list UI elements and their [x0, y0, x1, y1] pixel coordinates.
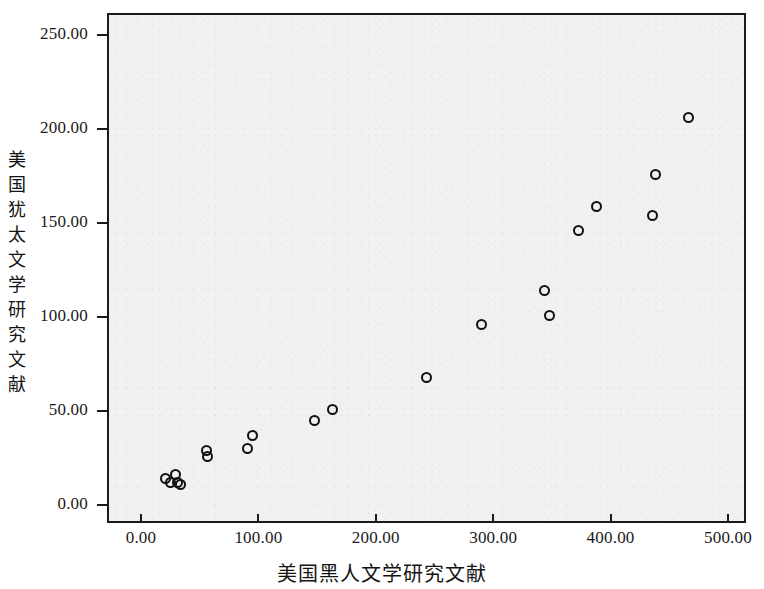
x-axis-tick-label: 400.00: [566, 528, 656, 548]
data-point: [650, 169, 661, 180]
x-axis-tick-label: 200.00: [331, 528, 421, 548]
data-point: [202, 451, 213, 462]
y-axis-tick-label: 50.00: [0, 400, 88, 420]
x-axis-tick-label: 500.00: [683, 528, 764, 548]
y-axis-tick: [97, 504, 107, 506]
plot-area: [107, 13, 746, 523]
data-point: [539, 285, 550, 296]
y-axis-tick: [97, 128, 107, 130]
data-point: [421, 372, 432, 383]
x-axis-tick: [727, 514, 729, 523]
y-axis-tick: [97, 410, 107, 412]
x-axis-tick-label: 300.00: [448, 528, 538, 548]
y-axis-tick-label: 200.00: [0, 118, 88, 138]
scatter-chart: 0.00100.00200.00300.00400.00500.00 0.005…: [0, 0, 764, 589]
data-point: [476, 319, 487, 330]
data-point: [175, 479, 186, 490]
data-point: [309, 415, 320, 426]
x-axis-tick: [610, 514, 612, 523]
x-axis-tick-label: 0.00: [96, 528, 186, 548]
x-axis-tick: [257, 514, 259, 523]
data-point: [591, 201, 602, 212]
data-point: [327, 404, 338, 415]
y-axis-title: 美国犹太文学研究文献: [2, 148, 32, 398]
y-axis-tick: [97, 316, 107, 318]
data-point: [647, 210, 658, 221]
x-axis-title: 美国黑人文学研究文献: [0, 558, 764, 587]
y-axis-tick-label: 250.00: [0, 24, 88, 44]
data-point: [683, 112, 694, 123]
y-axis-tick: [97, 222, 107, 224]
x-axis-tick: [140, 514, 142, 523]
y-axis-tick: [97, 34, 107, 36]
data-point: [242, 443, 253, 454]
data-point: [247, 430, 258, 441]
x-axis-tick-label: 100.00: [213, 528, 303, 548]
x-axis-tick: [492, 514, 494, 523]
y-axis-tick-label: 0.00: [0, 494, 88, 514]
data-point: [544, 310, 555, 321]
x-axis-tick: [375, 514, 377, 523]
data-point: [573, 225, 584, 236]
